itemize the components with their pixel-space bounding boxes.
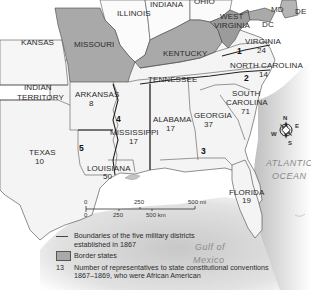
legend-number-text: Number of representatives to state const… bbox=[74, 264, 274, 281]
label-arkansas: ARKANSAS bbox=[75, 90, 119, 99]
scale-mi-500: 500 mi bbox=[188, 199, 206, 205]
label-virginia-num: 24 bbox=[257, 46, 266, 55]
label-atlantic-ocean-2: OCEAN bbox=[272, 171, 307, 181]
district-3-label: 3 bbox=[201, 146, 206, 156]
compass-n: N bbox=[283, 115, 287, 121]
label-south-carolina-1: SOUTH bbox=[232, 89, 261, 98]
label-ohio: OHIO bbox=[194, 0, 215, 6]
label-arkansas-num: 8 bbox=[89, 99, 94, 108]
label-tennessee: TENNESSEE bbox=[148, 75, 197, 84]
label-south-carolina-num: 71 bbox=[241, 107, 250, 116]
compass-s: S bbox=[288, 140, 292, 146]
label-west-virginia-2: VIRGINIA bbox=[214, 21, 250, 30]
label-georgia: GEORGIA bbox=[194, 111, 233, 120]
district-4-label: 4 bbox=[116, 114, 121, 124]
legend-border-states-text: Border states bbox=[74, 252, 309, 261]
legend-row-border-states: Border states bbox=[56, 252, 309, 261]
legend-row-boundaries: Boundaries of the five military district… bbox=[56, 232, 309, 249]
label-dc: DC bbox=[262, 20, 274, 29]
legend-number-key: 13 bbox=[56, 264, 74, 273]
label-missouri: MISSOURI bbox=[74, 40, 114, 49]
label-md: MD bbox=[271, 5, 284, 14]
label-virginia: VIRGINIA bbox=[245, 37, 281, 46]
compass-w: W bbox=[271, 131, 277, 137]
label-indian-territory-2: TERRITORY bbox=[17, 93, 64, 102]
label-texas-num: 10 bbox=[35, 157, 44, 166]
label-north-carolina: NORTH CAROLINA bbox=[230, 61, 303, 70]
district-2-label: 2 bbox=[244, 73, 249, 83]
label-kansas: KANSAS bbox=[21, 38, 54, 47]
label-alabama-num: 17 bbox=[166, 124, 175, 133]
boundary-line-icon bbox=[56, 236, 68, 237]
label-louisiana-num: 50 bbox=[103, 172, 112, 181]
label-kentucky: KENTUCKY bbox=[163, 49, 208, 58]
label-texas: TEXAS bbox=[29, 148, 56, 157]
reconstruction-map: ILLINOIS INDIANA OHIO MD DE DC WEST VIRG… bbox=[0, 0, 311, 290]
scale-mi-250: 250 bbox=[134, 199, 145, 205]
label-alabama: ALABAMA bbox=[153, 115, 192, 124]
scale-km-250: 250 bbox=[113, 212, 124, 218]
legend-row-number: 13 Number of representatives to state co… bbox=[56, 264, 309, 281]
label-north-carolina-num: 14 bbox=[259, 70, 268, 79]
district-1-label: 1 bbox=[237, 46, 242, 56]
label-mississippi-num: 17 bbox=[129, 137, 138, 146]
label-indiana: INDIANA bbox=[150, 0, 184, 9]
label-de: DE bbox=[295, 7, 306, 16]
map-legend: Boundaries of the five military district… bbox=[56, 232, 309, 284]
border-state-swatch-icon bbox=[56, 251, 71, 261]
scale-km-500: 500 km bbox=[146, 212, 166, 218]
legend-boundaries-text: Boundaries of the five military district… bbox=[74, 232, 204, 249]
label-georgia-num: 37 bbox=[204, 120, 213, 129]
label-west-virginia-1: WEST bbox=[220, 12, 244, 21]
label-atlantic-ocean-1: ATLANTIC bbox=[265, 158, 311, 168]
label-illinois: ILLINOIS bbox=[117, 9, 151, 18]
compass-e: E bbox=[295, 123, 299, 129]
label-mississippi: MISSISSIPPI bbox=[110, 128, 159, 137]
label-indian-territory-1: INDIAN bbox=[24, 83, 52, 92]
label-south-carolina-2: CAROLINA bbox=[226, 98, 268, 107]
label-florida-num: 19 bbox=[242, 196, 251, 205]
district-5-label: 5 bbox=[79, 143, 84, 153]
